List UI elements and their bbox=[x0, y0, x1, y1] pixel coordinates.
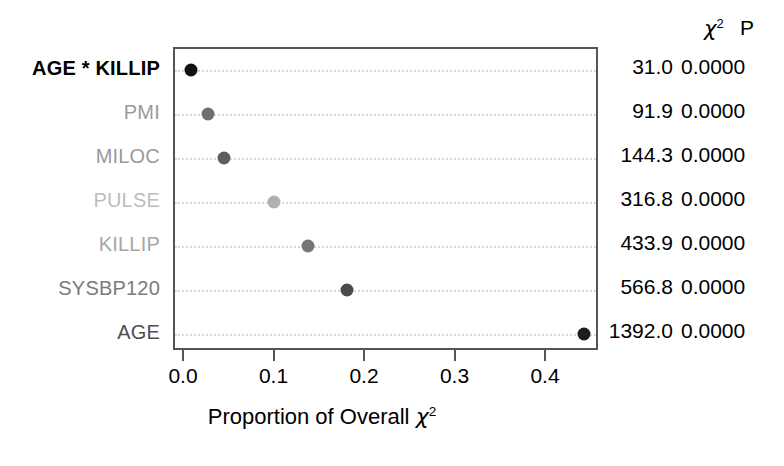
y-axis-label: PMI bbox=[124, 101, 160, 124]
chi-square-value: 566.8 bbox=[620, 275, 673, 299]
plot-area bbox=[173, 47, 598, 350]
p-value: 0.0000 bbox=[681, 231, 745, 255]
x-axis-tick bbox=[182, 350, 184, 361]
chi-square-value: 144.3 bbox=[620, 143, 673, 167]
gridline bbox=[175, 334, 596, 337]
gridline bbox=[175, 202, 596, 205]
header-p-value: P bbox=[740, 16, 754, 40]
chi-square-value: 316.8 bbox=[620, 187, 673, 211]
x-axis-tick-label: 0.3 bbox=[440, 364, 469, 388]
chi-square-value: 91.9 bbox=[632, 99, 673, 123]
statistics-table: χ2 P 31.00.000091.90.0000144.30.0000316.… bbox=[600, 0, 784, 466]
data-point bbox=[340, 284, 353, 297]
y-axis-label: MILOC bbox=[96, 145, 160, 168]
table-row: 144.30.0000 bbox=[600, 143, 784, 169]
p-value: 0.0000 bbox=[681, 55, 745, 79]
x-axis-title-text: Proportion of Overall bbox=[208, 404, 416, 429]
chi-square-value: 31.0 bbox=[632, 55, 673, 79]
table-row: 316.80.0000 bbox=[600, 187, 784, 213]
p-value: 0.0000 bbox=[681, 187, 745, 211]
table-row: 91.90.0000 bbox=[600, 99, 784, 125]
p-value: 0.0000 bbox=[681, 143, 745, 167]
data-point bbox=[217, 152, 230, 165]
gridline bbox=[175, 114, 596, 117]
y-axis-label: KILLIP bbox=[99, 233, 160, 256]
header-chi-square: χ2 bbox=[704, 16, 724, 41]
data-point bbox=[185, 64, 198, 77]
p-value: 0.0000 bbox=[681, 275, 745, 299]
x-axis-tick-label: 0.1 bbox=[259, 364, 288, 388]
table-row: 1392.00.0000 bbox=[600, 319, 784, 345]
gridline bbox=[175, 290, 596, 293]
data-point bbox=[201, 108, 214, 121]
x-axis-tick-label: 0.0 bbox=[168, 364, 197, 388]
gridline bbox=[175, 246, 596, 249]
x-axis-tick-label: 0.2 bbox=[349, 364, 378, 388]
statistics-header: χ2 P bbox=[600, 12, 784, 42]
data-point bbox=[578, 328, 591, 341]
p-value: 0.0000 bbox=[681, 319, 745, 343]
p-value: 0.0000 bbox=[681, 99, 745, 123]
chi-symbol-icon: χ bbox=[416, 404, 429, 429]
chi-square-value: 433.9 bbox=[620, 231, 673, 255]
y-axis-labels: AGE * KILLIPPMIMILOCPULSEKILLIPSYSBP120A… bbox=[0, 0, 166, 466]
x-axis-tick bbox=[544, 350, 546, 361]
chi-square-value: 1392.0 bbox=[609, 319, 673, 343]
y-axis-label: AGE bbox=[117, 321, 160, 344]
data-point bbox=[267, 196, 280, 209]
y-axis-label: AGE * KILLIP bbox=[32, 57, 160, 80]
x-axis-tick-label: 0.4 bbox=[530, 364, 559, 388]
table-row: 31.00.0000 bbox=[600, 55, 784, 81]
table-row: 566.80.0000 bbox=[600, 275, 784, 301]
gridline bbox=[175, 70, 596, 73]
data-point bbox=[302, 240, 315, 253]
y-axis-label: PULSE bbox=[93, 189, 160, 212]
chi-superscript: 2 bbox=[429, 404, 437, 419]
x-axis-tick bbox=[454, 350, 456, 361]
x-axis-tick bbox=[273, 350, 275, 361]
anova-dot-chart: AGE * KILLIPPMIMILOCPULSEKILLIPSYSBP120A… bbox=[0, 0, 784, 466]
y-axis-label: SYSBP120 bbox=[58, 277, 160, 300]
table-row: 433.90.0000 bbox=[600, 231, 784, 257]
gridline bbox=[175, 158, 596, 161]
x-axis-tick bbox=[363, 350, 365, 361]
